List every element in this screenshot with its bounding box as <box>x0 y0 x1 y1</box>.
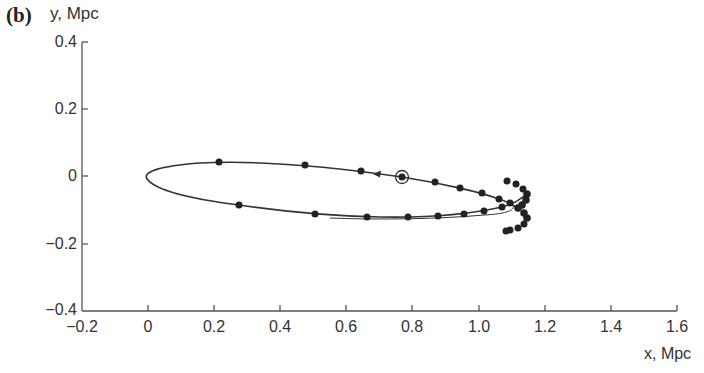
x-tick-label: 1.0 <box>454 318 504 336</box>
x-tick-label: 0.8 <box>387 318 437 336</box>
y-tick-label: 0.4 <box>27 33 77 51</box>
panel-label: (b) <box>6 3 32 28</box>
y-tick-label: −0.4 <box>27 301 77 319</box>
x-tick-label: 0.2 <box>189 318 239 336</box>
direction-arrow-icon <box>373 171 381 178</box>
orbit-curves <box>146 162 524 219</box>
x-tick-label: 1.2 <box>520 318 570 336</box>
y-tick-label: 0 <box>27 167 77 185</box>
x-axis-label: x, Mpc <box>644 345 691 363</box>
orbit-path-1 <box>146 162 524 217</box>
x-tick-label: 1.6 <box>652 318 702 336</box>
x-tick-label: 1.4 <box>586 318 636 336</box>
x-tick-label: 0 <box>123 318 173 336</box>
x-tick-label: 0.4 <box>255 318 305 336</box>
y-tick-label: 0.2 <box>27 100 77 118</box>
x-tick-label: 0.6 <box>321 318 371 336</box>
x-tick-label: −0.2 <box>57 318 107 336</box>
y-tick-label: −0.2 <box>27 235 77 253</box>
y-axis-label: y, Mpc <box>50 4 99 24</box>
